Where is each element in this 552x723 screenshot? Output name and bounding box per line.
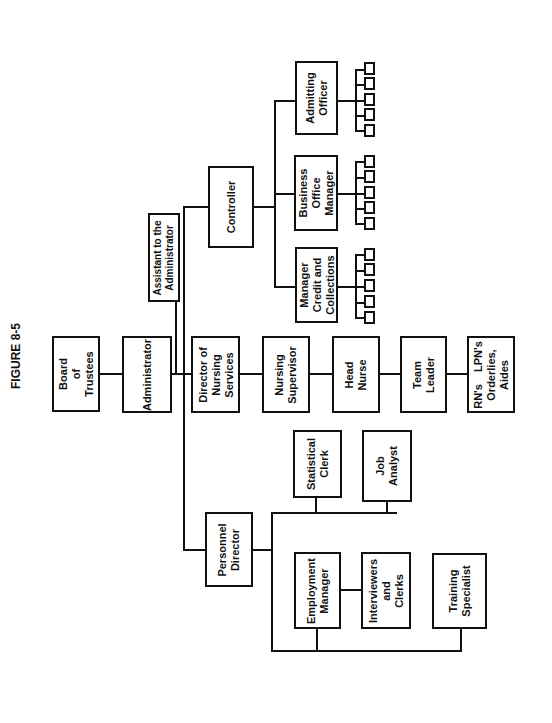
node-interviewers-and-clerks: Interviewers and Clerks <box>361 552 411 629</box>
connector <box>386 502 388 513</box>
connector <box>183 206 208 208</box>
connector <box>338 193 355 195</box>
subordinate-box <box>364 263 375 276</box>
connector <box>355 115 364 117</box>
connector <box>355 223 364 225</box>
connector <box>183 206 185 551</box>
node-label: Interviewers and Clerks <box>367 558 406 622</box>
subordinate-box <box>364 93 375 106</box>
subordinate-box <box>364 248 375 261</box>
node-head-nurse: Head Nurse <box>332 336 380 413</box>
node-administrator: Administrator <box>122 336 172 413</box>
connector <box>355 254 364 256</box>
subordinate-box <box>364 217 375 230</box>
connector <box>274 100 295 102</box>
node-employment-manager: Employment Manager <box>294 552 341 629</box>
node-job-analyst: Job Analyst <box>362 430 412 502</box>
connector <box>271 650 462 652</box>
connector <box>271 512 397 514</box>
node-business-office-manager: Business Office Manager <box>294 155 338 231</box>
connector <box>355 177 364 179</box>
node-label: Training Specialist <box>447 565 473 616</box>
node-team-leader: Team Leader <box>400 336 447 413</box>
node-label: Team Leader <box>411 356 437 392</box>
connector <box>271 512 273 651</box>
connector <box>341 589 361 591</box>
subordinate-box <box>364 201 375 214</box>
connector <box>355 161 364 163</box>
connector <box>175 302 177 374</box>
subordinate-box <box>364 77 375 90</box>
connector <box>355 100 364 102</box>
subordinate-box <box>364 295 375 308</box>
subordinate-box <box>364 186 375 199</box>
connector <box>253 549 271 551</box>
connector <box>274 193 294 195</box>
connector <box>380 373 400 375</box>
connector <box>355 193 364 195</box>
connector <box>315 498 317 513</box>
node-director-of-nursing: Director of Nursing Services <box>191 336 240 413</box>
subordinate-box <box>364 279 375 292</box>
connector <box>183 549 205 551</box>
node-assistant-to-administrator: Assistant to the Administrator <box>148 213 180 302</box>
subordinate-box <box>364 155 375 168</box>
figure-label: FIGURE 8-5 <box>9 323 23 389</box>
subordinate-box <box>364 62 375 75</box>
connector <box>254 206 274 208</box>
node-label: Admitting Officer <box>304 72 330 123</box>
connector <box>316 629 318 651</box>
org-chart: FIGURE 8-5 Board of Trustees Administrat… <box>0 0 552 723</box>
subordinate-box <box>364 124 375 137</box>
connector <box>355 208 364 210</box>
node-admitting-officer: Admitting Officer <box>295 61 338 135</box>
connector <box>355 84 364 86</box>
connector <box>355 270 364 272</box>
node-label: Nursing Supervisor <box>273 346 299 403</box>
connector <box>447 373 467 375</box>
node-personnel-director: Personnel Director <box>205 512 253 587</box>
connector <box>460 629 462 651</box>
connector <box>355 69 364 71</box>
node-nursing-supervisor: Nursing Supervisor <box>262 336 310 413</box>
connector <box>274 286 295 288</box>
connector <box>338 100 355 102</box>
node-label: Manager Credit and Collections <box>297 255 336 314</box>
connector <box>355 130 364 132</box>
node-controller: Controller <box>208 166 254 248</box>
node-label: Statistical Clerk <box>305 438 331 490</box>
node-nursing-staff: RN's LPN's Orderlies, Aides <box>467 336 515 413</box>
node-label: Job Analyst <box>374 446 400 486</box>
node-label: Personnel Director <box>216 523 242 576</box>
connector <box>355 317 364 319</box>
connector <box>338 286 355 288</box>
node-label: Board of Trustees <box>57 351 96 396</box>
node-label: Business Office Manager <box>297 169 336 218</box>
node-board-of-trustees: Board of Trustees <box>52 336 100 412</box>
node-training-specialist: Training Specialist <box>432 553 487 629</box>
node-label: Director of Nursing Services <box>196 347 235 403</box>
connector <box>310 373 332 375</box>
node-label: Assistant to the Administrator <box>152 220 176 295</box>
node-label: Head Nurse <box>343 359 369 390</box>
connector <box>100 373 122 375</box>
node-label: Employment Manager <box>305 557 331 623</box>
node-manager-credit-collections: Manager Credit and Collections <box>295 247 338 323</box>
connector <box>355 302 364 304</box>
subordinate-box <box>364 170 375 183</box>
node-statistical-clerk: Statistical Clerk <box>293 430 342 498</box>
connector <box>240 373 262 375</box>
node-label: RN's LPN's Orderlies, Aides <box>472 341 511 409</box>
node-label: Controller <box>225 181 238 234</box>
node-label: Administrator <box>141 338 154 410</box>
connector <box>355 286 364 288</box>
subordinate-box <box>364 311 375 324</box>
subordinate-box <box>364 108 375 121</box>
